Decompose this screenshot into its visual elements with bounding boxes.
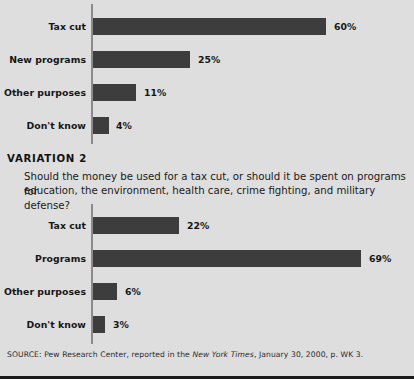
- table-row: Tax cut 22%: [0, 217, 414, 234]
- bar-value-label: 11%: [144, 84, 166, 101]
- table-row: Other purposes 6%: [0, 283, 414, 300]
- table-row: Tax cut 60%: [0, 18, 414, 35]
- bar-category-label: Tax cut: [0, 18, 86, 35]
- bar-value-label: 60%: [334, 18, 356, 35]
- bar-shape: [93, 316, 105, 333]
- chart-variation-2: Tax cut 22% Programs 69% Other purposes …: [0, 204, 414, 346]
- table-row: Programs 69%: [0, 250, 414, 267]
- bar-category-label: New programs: [0, 51, 86, 68]
- bar-shape: [93, 250, 361, 267]
- bar-value-label: 4%: [116, 117, 132, 134]
- bar-value-label: 25%: [198, 51, 220, 68]
- bar-shape: [93, 217, 179, 234]
- table-row: Other purposes 11%: [0, 84, 414, 101]
- table-row: Don't know 4%: [0, 117, 414, 134]
- bar-value-label: 3%: [113, 316, 129, 333]
- bar-category-label: Don't know: [0, 316, 86, 333]
- bar-shape: [93, 51, 190, 68]
- source-publication: New York Times: [192, 350, 254, 359]
- figure-panel: Tax cut 60% New programs 25% Other purpo…: [0, 0, 414, 379]
- bar-category-label: Don't know: [0, 117, 86, 134]
- bar-shape: [93, 18, 326, 35]
- table-row: Don't know 3%: [0, 316, 414, 333]
- variation-heading: VARIATION 2: [7, 153, 87, 164]
- bar-category-label: Tax cut: [0, 217, 86, 234]
- bar-shape: [93, 283, 117, 300]
- bar-shape: [93, 84, 136, 101]
- bar-value-label: 69%: [369, 250, 391, 267]
- bar-shape: [93, 117, 109, 134]
- bar-category-label: Other purposes: [0, 84, 86, 101]
- bar-value-label: 6%: [125, 283, 141, 300]
- source-prefix: SOURCE: Pew Research Center, reported in…: [7, 350, 192, 359]
- source-suffix: , January 30, 2000, p. WK 3.: [254, 350, 363, 359]
- bar-category-label: Programs: [0, 250, 86, 267]
- table-row: New programs 25%: [0, 51, 414, 68]
- source-note: SOURCE: Pew Research Center, reported in…: [7, 350, 363, 359]
- bar-value-label: 22%: [187, 217, 209, 234]
- bar-category-label: Other purposes: [0, 283, 86, 300]
- chart-variation-1: Tax cut 60% New programs 25% Other purpo…: [0, 0, 414, 148]
